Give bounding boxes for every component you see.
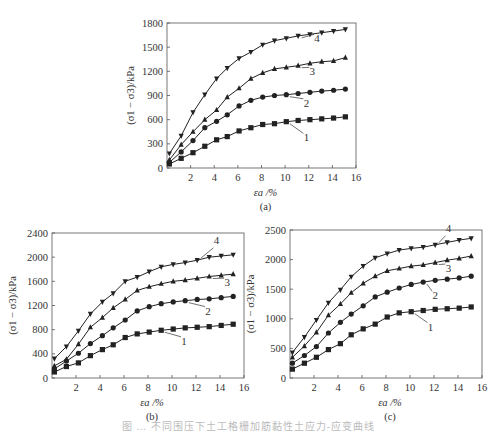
triangle-up-marker-icon — [349, 290, 354, 295]
square-marker-icon — [302, 361, 307, 366]
series-3 — [167, 55, 348, 163]
circle-marker-icon — [445, 277, 450, 282]
curve-label: 1 — [181, 335, 187, 347]
square-marker-icon — [331, 115, 336, 120]
triangle-up-marker-icon — [236, 85, 241, 90]
curve-label: 3 — [310, 65, 316, 77]
square-marker-icon — [123, 335, 128, 340]
square-marker-icon — [409, 309, 414, 314]
circle-marker-icon — [272, 93, 277, 98]
curve-label: 3 — [224, 276, 230, 288]
figure-caption: 图 … 不同围压下土工格栅加筋黏性土应力-应变曲线 — [0, 418, 497, 433]
square-marker-icon — [272, 121, 277, 126]
triangle-down-marker-icon — [190, 110, 195, 115]
y-tick-label: 600 — [147, 114, 163, 125]
triangle-down-marker-icon — [373, 256, 378, 261]
circle-marker-icon — [307, 90, 312, 95]
curve-label: 4 — [314, 32, 320, 44]
circle-marker-icon — [88, 341, 93, 346]
x-tick-label: 10 — [280, 172, 291, 183]
square-marker-icon — [207, 324, 212, 329]
x-tick-label: 2 — [311, 382, 316, 393]
x-tick-label: 6 — [359, 382, 364, 393]
square-marker-icon — [202, 144, 207, 149]
square-marker-icon — [385, 314, 390, 319]
square-marker-icon — [135, 331, 140, 336]
curve-label: 1 — [304, 131, 310, 143]
square-marker-icon — [219, 323, 224, 328]
triangle-down-marker-icon — [236, 56, 241, 61]
triangle-down-marker-icon — [361, 264, 366, 269]
square-marker-icon — [343, 114, 348, 119]
y-tick-label: 0 — [158, 163, 163, 174]
square-marker-icon — [433, 307, 438, 312]
curve-label: 3 — [446, 262, 452, 274]
panel-caption: (a) — [260, 201, 272, 213]
square-marker-icon — [225, 134, 230, 139]
circle-marker-icon — [231, 294, 236, 299]
x-axis-label: εa /% — [140, 397, 164, 408]
x-tick-label: 4 — [97, 382, 103, 393]
y-tick-label: 900 — [147, 90, 163, 101]
x-tick-label: 12 — [304, 172, 315, 183]
y-tick-label: 400 — [32, 348, 48, 359]
circle-marker-icon — [159, 301, 164, 306]
circle-marker-icon — [76, 351, 81, 356]
circle-marker-icon — [260, 95, 265, 100]
x-tick-label: 4 — [212, 172, 218, 183]
square-marker-icon — [469, 304, 474, 309]
x-tick-label: 14 — [453, 382, 464, 393]
y-tick-label: 1500 — [265, 284, 286, 295]
y-tick-label: 1500 — [142, 42, 163, 53]
circle-marker-icon — [409, 282, 414, 287]
y-tick-label: 2400 — [27, 228, 48, 239]
square-marker-icon — [159, 328, 164, 333]
x-tick-label: 8 — [383, 382, 388, 393]
curve-label: 1 — [428, 321, 434, 333]
square-marker-icon — [195, 325, 200, 330]
x-tick-label: 10 — [167, 382, 178, 393]
square-marker-icon — [231, 322, 236, 327]
y-tick-label: 1200 — [142, 66, 163, 77]
square-marker-icon — [111, 342, 116, 347]
x-tick-label: 14 — [327, 172, 338, 183]
circle-marker-icon — [284, 92, 289, 97]
square-marker-icon — [349, 332, 354, 337]
circle-marker-icon — [123, 317, 128, 322]
triangle-down-marker-icon — [167, 151, 172, 156]
square-marker-icon — [361, 326, 366, 331]
square-marker-icon — [284, 119, 289, 124]
y-axis-label: (σ1 − σ3)/kPa — [245, 274, 257, 333]
x-axis-label: εa /% — [254, 187, 278, 198]
circle-marker-icon — [147, 304, 152, 309]
circle-marker-icon — [457, 275, 462, 280]
y-tick-label: 1000 — [265, 313, 286, 324]
square-marker-icon — [248, 125, 253, 130]
y-tick-label: 0 — [43, 373, 48, 384]
square-marker-icon — [338, 341, 343, 346]
square-marker-icon — [179, 156, 184, 161]
circle-marker-icon — [135, 308, 140, 313]
y-tick-label: 1800 — [142, 18, 163, 29]
x-tick-label: 6 — [235, 172, 240, 183]
square-marker-icon — [290, 367, 295, 372]
circle-marker-icon — [225, 112, 230, 117]
y-tick-label: 1200 — [27, 300, 48, 311]
square-marker-icon — [183, 325, 188, 330]
curve-label: 2 — [205, 305, 211, 317]
x-tick-label: 2 — [188, 172, 193, 183]
chart-panel-c: 05001000150020002500246810121416εa /%(σ1… — [245, 222, 487, 423]
circle-marker-icon — [207, 296, 212, 301]
y-tick-label: 1600 — [27, 276, 48, 287]
triangle-down-marker-icon — [52, 357, 57, 362]
circle-marker-icon — [361, 303, 366, 308]
circle-marker-icon — [421, 279, 426, 284]
square-marker-icon — [373, 322, 378, 327]
x-tick-label: 16 — [351, 172, 362, 183]
y-tick-label: 2000 — [265, 254, 286, 265]
circle-marker-icon — [100, 333, 105, 338]
circle-marker-icon — [326, 330, 331, 335]
y-tick-label: 500 — [270, 343, 286, 354]
x-tick-label: 16 — [477, 382, 488, 393]
triangle-up-marker-icon — [202, 117, 207, 122]
